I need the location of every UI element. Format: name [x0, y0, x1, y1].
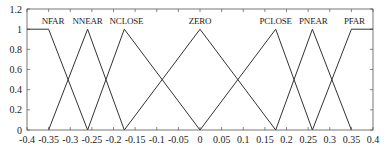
series-label-nclose: NCLOSE [110, 16, 145, 26]
series-label-pclose: PCLOSE [260, 16, 293, 26]
y-tick-label: 1.2 [10, 4, 23, 15]
x-tick-label: 0.25 [299, 134, 317, 145]
y-tick-label: 1 [17, 24, 22, 35]
series-label-zero: ZERO [189, 16, 212, 26]
y-tick-label: 0.8 [10, 44, 23, 55]
series-pclose-line [200, 29, 312, 130]
x-tick-label: -0.15 [125, 134, 146, 145]
y-tick-label: 0.4 [10, 84, 23, 95]
x-tick-label: 0.2 [280, 134, 293, 145]
x-tick-label: 0.15 [256, 134, 274, 145]
membership-function-chart: 00.20.40.60.811.2 -0.4-0.35-0.3-0.25-0.2… [0, 0, 387, 155]
series-pnear-line [276, 29, 352, 130]
series-nfar-line [27, 29, 88, 130]
x-tick-label: -0.1 [149, 134, 165, 145]
x-tick-label: 0.35 [343, 134, 361, 145]
x-tick-label: -0.35 [38, 134, 59, 145]
x-tick-label: -0.4 [19, 134, 35, 145]
series-labels: NFARNNEARNCLOSEZEROPCLOSEPNEARPFAR [42, 16, 365, 26]
x-tick-label: 0 [198, 134, 203, 145]
series-group [27, 29, 373, 130]
series-label-pnear: PNEAR [299, 16, 328, 26]
y-tick-label: 0.2 [10, 104, 23, 115]
series-pfar-line [312, 29, 373, 130]
series-nnear-line [49, 29, 125, 130]
x-tick-label: -0.25 [81, 134, 102, 145]
series-nclose-line [88, 29, 200, 130]
x-tick-label: -0.3 [62, 134, 78, 145]
series-label-nfar: NFAR [42, 16, 65, 26]
series-label-pfar: PFAR [344, 16, 365, 26]
x-tick-label: 0.05 [213, 134, 231, 145]
x-tick-label: 0.1 [237, 134, 250, 145]
x-tick-label: 0.4 [367, 134, 380, 145]
x-axis: -0.4-0.35-0.3-0.25-0.2-0.15-0.1-0.0500.0… [19, 9, 379, 145]
x-tick-label: -0.05 [168, 134, 189, 145]
x-tick-label: -0.2 [106, 134, 122, 145]
plot-border [27, 9, 373, 130]
plot-frame [27, 9, 373, 130]
y-tick-label: 0.6 [10, 64, 23, 75]
x-tick-label: 0.3 [324, 134, 337, 145]
series-label-nnear: NNEAR [73, 16, 103, 26]
series-zero-line [124, 29, 275, 130]
